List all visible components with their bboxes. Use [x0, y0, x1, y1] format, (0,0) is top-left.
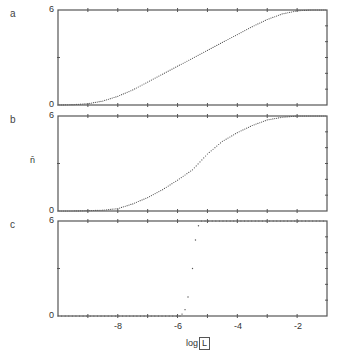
- xtick-label-neg8: -8: [106, 321, 130, 331]
- panel-letter-b: b: [10, 114, 16, 125]
- xtick-label-neg6: -6: [166, 321, 190, 331]
- panel-a-ytick-0: 0: [42, 99, 54, 109]
- figure-canvas: [0, 0, 338, 355]
- panel-c-ytick-0: 0: [42, 310, 54, 320]
- panel-c-ytick-6: 6: [42, 215, 54, 225]
- panel-b-ytick-6: 6: [42, 110, 54, 120]
- x-axis-title-log: log: [186, 338, 198, 348]
- panel-b-ytick-0: 0: [42, 205, 54, 215]
- plot-frame: [58, 116, 327, 211]
- panel-c: [57, 219, 328, 318]
- panel-letter-a: a: [10, 8, 16, 19]
- plot-frame: [58, 10, 327, 105]
- panel-letter-c: c: [10, 219, 15, 230]
- y-axis-title: n̄: [30, 155, 35, 165]
- panel-a-ytick-6: 6: [42, 4, 54, 14]
- x-axis-title: logL: [186, 337, 210, 350]
- x-axis-title-bracket: L: [199, 337, 210, 350]
- xtick-label-neg4: -4: [226, 321, 250, 331]
- panel-a: [57, 8, 328, 107]
- panel-b: [57, 114, 328, 213]
- xtick-label-neg2: -2: [286, 321, 310, 331]
